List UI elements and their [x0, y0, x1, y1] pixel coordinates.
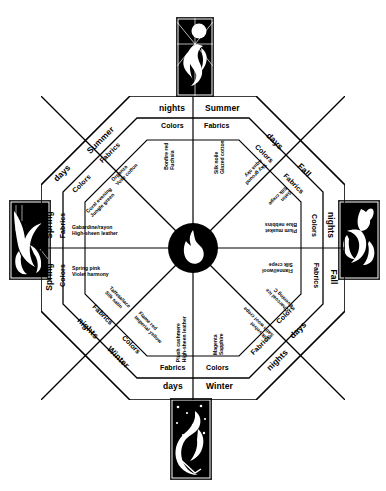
label-top-right-summer: Summer	[205, 103, 240, 113]
category-winter-days-fabrics: Fabrics	[160, 364, 186, 371]
label-left-lower-spring: Spring	[44, 263, 54, 291]
label-top-left-nights: nights	[159, 103, 185, 113]
label-right-upper-nights: nights	[326, 212, 336, 238]
winter-night-bird-illustration	[170, 398, 212, 480]
items-fall-days-fabrics: Flannel/wool Silk crepe	[262, 262, 293, 274]
summer-sun-bird-illustration	[176, 17, 214, 97]
category-winter-days-colors: Colors	[206, 364, 229, 371]
label-bottom-right-winter: Winter	[206, 381, 233, 391]
items-summer-nights-colors: Bonfire red Fuchsia	[163, 143, 175, 170]
category-spring-days-fabrics: Fabrics	[59, 213, 66, 239]
category-spring-nights-colors: Colors	[59, 264, 66, 287]
diagram-canvas: nights Summer days Winter Spring Spring …	[0, 0, 386, 491]
category-summer-nights-fabrics: Fabrics	[204, 122, 230, 129]
label-left-upper-spring: Spring	[44, 211, 54, 239]
items-winter-days-fabrics: Plush cashmere High-sheen leather	[175, 316, 187, 362]
category-fall-nights-colors: Colors	[311, 214, 318, 237]
items-fall-nights-colors: Plum musket Blue nebbins	[265, 222, 297, 234]
label-bottom-left-days: days	[163, 381, 183, 391]
items-spring-nights-colors: Spring pink Violet harmony	[72, 265, 109, 277]
category-summer-nights-colors: Colors	[161, 122, 184, 129]
label-right-lower-fall: Fall	[329, 269, 339, 284]
seasonal-wheel	[41, 96, 345, 400]
items-spring-days-fabrics: Gabardine/rayon High-sheen leather	[72, 224, 118, 236]
category-fall-days-fabrics: Fabrics	[313, 263, 320, 289]
items-winter-days-colors: Magenta Sapphire	[212, 333, 224, 355]
items-summer-nights-fabrics: Silk noile Glazed cotton	[213, 140, 225, 174]
